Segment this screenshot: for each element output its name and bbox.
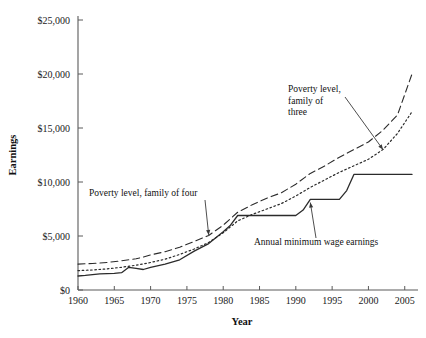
y-tick-label: $25,000 — [38, 15, 71, 26]
annotation-line: Poverty level, family of four — [89, 188, 198, 198]
earnings-vs-poverty-chart: $0$5,000$10,000$15,000$20,000$25,000 196… — [0, 0, 426, 338]
x-tick-label: 1985 — [250, 295, 270, 306]
x-tick-label: 1975 — [177, 295, 197, 306]
annotation-line: three — [288, 107, 307, 117]
annotation-line: Poverty level, — [288, 84, 341, 94]
x-tick-label: 1980 — [213, 295, 233, 306]
x-axis-title: Year — [232, 316, 253, 327]
y-tick-label: $20,000 — [38, 69, 71, 80]
x-tick-label: 2005 — [395, 295, 415, 306]
annotation-line: family of — [288, 96, 324, 106]
x-tick-label: 1960 — [68, 295, 88, 306]
annotation-line: Annual minimum wage earnings — [254, 237, 379, 247]
x-tick-label: 2000 — [358, 295, 378, 306]
x-tick-label: 1970 — [141, 295, 161, 306]
y-tick-label: $10,000 — [38, 177, 71, 188]
y-axis-title: Earnings — [7, 135, 18, 176]
x-tick-label: 1990 — [286, 295, 306, 306]
y-tick-label: $0 — [60, 285, 70, 296]
chart-page: $0$5,000$10,000$15,000$20,000$25,000 196… — [0, 0, 426, 338]
x-tick-label: 1995 — [322, 295, 342, 306]
x-tick-label: 1965 — [104, 295, 124, 306]
y-tick-label: $15,000 — [38, 123, 71, 134]
y-tick-label: $5,000 — [43, 231, 71, 242]
